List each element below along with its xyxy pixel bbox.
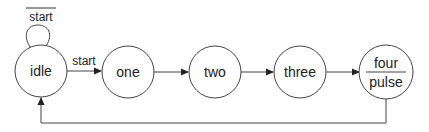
state-four: four pulse (359, 45, 413, 99)
state-label: one (116, 64, 140, 80)
transition-idle-to-one: start (67, 54, 101, 71)
self-loop-label: start (29, 10, 53, 24)
transition-four-to-idle (41, 98, 386, 123)
state-diagram: start idle start one two three four puls… (0, 0, 429, 132)
state-two: two (189, 46, 241, 98)
state-idle: idle (15, 45, 67, 97)
transition-idle-self-loop: start (26, 8, 56, 47)
state-output-label: pulse (369, 74, 403, 90)
state-label: two (204, 64, 226, 80)
state-one: one (102, 46, 154, 98)
state-label: three (284, 64, 316, 80)
transition-label: start (72, 54, 96, 68)
state-three: three (274, 46, 326, 98)
state-label: four (374, 55, 398, 71)
self-loop-arrow (26, 25, 49, 47)
state-label: idle (30, 63, 52, 79)
